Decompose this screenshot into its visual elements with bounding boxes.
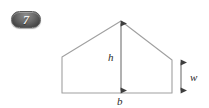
geometry-figure xyxy=(0,0,209,108)
wall-label: w xyxy=(190,72,197,83)
pentagon-outline xyxy=(62,21,172,93)
figure-screenshot: 7 h b w xyxy=(0,0,209,108)
base-label: b xyxy=(117,96,123,107)
height-label: h xyxy=(108,52,114,63)
